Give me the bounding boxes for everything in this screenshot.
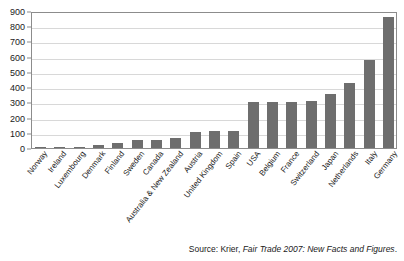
plot-area — [31, 12, 397, 149]
x-axis-labels: NorwayIrelandLuxembourgDenmarkFinlandSwe… — [31, 150, 397, 222]
bar — [35, 147, 46, 148]
y-tick-label: 800 — [10, 23, 25, 32]
bars — [32, 13, 396, 148]
bar — [170, 138, 181, 148]
bar — [325, 94, 336, 148]
bar — [93, 145, 104, 148]
y-tick-label: 0 — [20, 145, 25, 154]
bar — [364, 60, 375, 148]
y-tick-label: 600 — [10, 53, 25, 62]
bar — [228, 131, 239, 149]
y-tick-label: 300 — [10, 99, 25, 108]
bar — [74, 147, 85, 148]
bar — [54, 147, 65, 148]
x-axis-label: Italy — [364, 150, 379, 166]
bar — [190, 132, 201, 148]
source-label: Source: Krier, — [189, 244, 243, 254]
y-tick-label: 900 — [10, 8, 25, 17]
bar — [344, 83, 355, 148]
bar — [383, 17, 394, 148]
source-note: Source: Krier, Fair Trade 2007: New Fact… — [189, 244, 397, 254]
bar — [306, 101, 317, 148]
bar — [248, 102, 259, 148]
source-title: Fair Trade 2007: New Facts and Figures — [243, 244, 395, 254]
bar — [151, 140, 162, 148]
bar — [267, 102, 278, 148]
bar — [112, 143, 123, 148]
y-axis: 9008007006005004003002001000 — [0, 12, 31, 149]
source-suffix: . — [395, 244, 397, 254]
bar — [132, 140, 143, 148]
bar-chart: 9008007006005004003002001000 NorwayIrela… — [0, 0, 404, 261]
y-tick-label: 100 — [10, 129, 25, 138]
y-tick-label: 400 — [10, 84, 25, 93]
x-axis-label: USA — [246, 150, 262, 168]
y-tick-label: 700 — [10, 38, 25, 47]
bar — [209, 131, 220, 148]
x-axis-label: Spain — [224, 150, 243, 171]
bar — [286, 102, 297, 148]
y-tick-label: 500 — [10, 68, 25, 77]
x-axis-label: Norway — [26, 150, 49, 176]
y-tick-label: 200 — [10, 114, 25, 123]
